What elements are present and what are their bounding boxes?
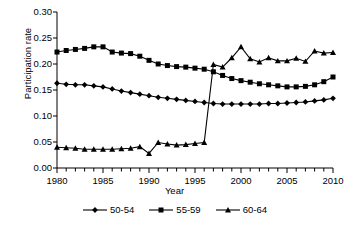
x-tick-label: 2005	[276, 176, 297, 186]
x-tick-label: 1980	[46, 176, 67, 186]
legend-label: 50-54	[109, 205, 134, 215]
x-tick-label: 1995	[184, 176, 205, 186]
legend-item-60-64[interactable]: 60-64	[215, 205, 267, 215]
legend-marker-diamond-icon	[82, 205, 108, 215]
x-axis-title: Year	[0, 186, 349, 196]
x-tick-label: 1990	[138, 176, 159, 186]
x-tick-label: 2000	[230, 176, 251, 186]
chart-legend: 50-5455-5960-64	[0, 205, 349, 215]
x-tick-label: 2010	[322, 176, 343, 186]
legend-marker-triangle-icon	[215, 205, 241, 215]
legend-label: 55-59	[175, 205, 200, 215]
chart-figure: Participation rate 0.000.050.100.150.200…	[0, 0, 349, 228]
legend-label: 60-64	[242, 205, 267, 215]
legend-item-50-54[interactable]: 50-54	[82, 205, 134, 215]
legend-marker-square-icon	[148, 205, 174, 215]
legend-item-55-59[interactable]: 55-59	[148, 205, 200, 215]
x-tick-label: 1985	[92, 176, 113, 186]
